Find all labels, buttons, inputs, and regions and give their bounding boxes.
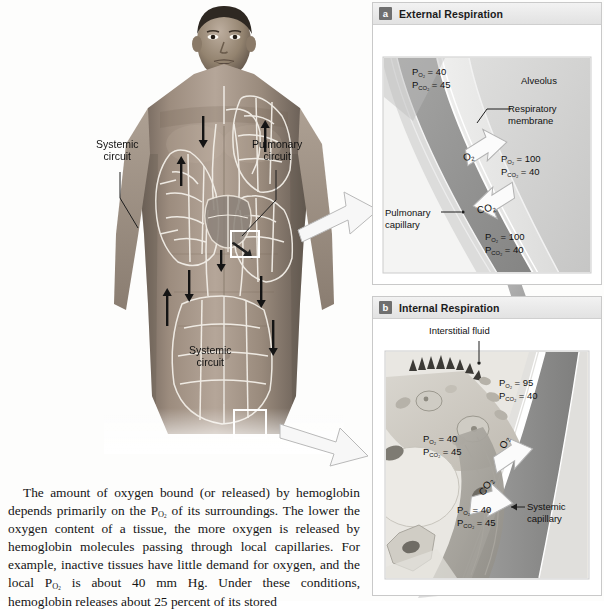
- resp-membrane-line-1: Respiratory: [508, 103, 557, 114]
- label-interstitial-fluid: Interstitial fluid: [429, 325, 490, 336]
- po2-value: 40: [481, 504, 492, 515]
- pressure-capillary-inflow-b: PO2 = 95 PCO2 = 40: [499, 377, 538, 404]
- panel-b-title: Internal Respiration: [399, 302, 500, 314]
- panel-a-badge: a: [379, 7, 392, 20]
- po2-line: PO2 = 100: [501, 153, 541, 166]
- pco2-line: PCO2 = 45: [457, 517, 496, 530]
- po2-value: 100: [525, 153, 541, 164]
- po2-line: PO2 = 95: [499, 377, 538, 390]
- label-pulmonary-circuit: Pulmonary circuit: [252, 138, 302, 163]
- pressure-capillary-outflow-a: PO2 = 100 PCO2 = 40: [485, 231, 525, 258]
- pressure-capillary-inflow-a: PO2 = 40 PCO2 = 45: [412, 66, 451, 93]
- o2-arrow-label-a: O2O2: [462, 150, 475, 164]
- alveolus-text: Alveolus: [521, 75, 557, 86]
- pco2-line: PCO2 = 40: [485, 244, 525, 257]
- label-pulmonary-capillary: Pulmonary capillary: [385, 207, 430, 231]
- pressure-alveolus-a: PO2 = 100 PCO2 = 40: [501, 153, 541, 180]
- label-systemic-capillary: Systemic capillary: [527, 501, 566, 525]
- label-line-1: Systemic: [96, 138, 139, 150]
- pco2-value: 40: [527, 390, 538, 401]
- pco2-line: PCO2 = 45: [423, 446, 462, 459]
- pco2-line: PCO2 = 40: [501, 166, 541, 179]
- panel-b-header: b Internal Respiration: [373, 297, 601, 319]
- label-line-1: Pulmonary: [252, 138, 302, 150]
- pulm-cap-line-1: Pulmonary: [385, 207, 430, 218]
- panel-a-header: a External Respiration: [373, 3, 601, 25]
- resp-membrane-line-2: membrane: [508, 115, 553, 126]
- body-paragraph: The amount of oxygen bound (or released)…: [8, 484, 360, 610]
- panel-external-respiration: a External Respiration: [372, 2, 602, 285]
- pco2-value: 45: [451, 446, 462, 457]
- label-line-2: circuit: [263, 150, 290, 162]
- callout-box-a: [230, 230, 260, 258]
- label-respiratory-membrane: Respiratory membrane: [508, 103, 557, 127]
- sys-cap-line-1: Systemic: [527, 501, 566, 512]
- panel-internal-respiration: b Internal Respiration: [372, 296, 602, 596]
- po2-value: 40: [447, 433, 458, 444]
- pco2-line: PCO2 = 40: [499, 390, 538, 403]
- panel-b-badge: b: [379, 301, 392, 314]
- label-systemic-circuit-upper: Systemic circuit: [96, 138, 139, 163]
- label-alveolus: Alveolus: [521, 75, 557, 86]
- subscript-o2-2: O2: [52, 582, 61, 591]
- po2-line: PO2 = 40: [423, 433, 462, 446]
- po2-value: 95: [523, 377, 534, 388]
- pressure-tissue-b: PO2 = 40 PCO2 = 45: [423, 433, 462, 460]
- pco2-line: PCO2 = 45: [412, 79, 451, 92]
- label-line-2: circuit: [104, 150, 131, 162]
- po2-line: PO2 = 40: [457, 504, 496, 517]
- pressure-capillary-outflow-b: PO2 = 40 PCO2 = 45: [457, 504, 496, 531]
- pco2-value: 45: [485, 517, 496, 528]
- sys-cap-line-2: capillary: [527, 513, 562, 524]
- interstitial-fluid-text: Interstitial fluid: [429, 325, 490, 336]
- callout-box-b: [233, 409, 267, 439]
- panel-a-title: External Respiration: [399, 8, 503, 20]
- po2-line: PO2 = 100: [485, 231, 525, 244]
- pco2-value: 40: [529, 166, 540, 177]
- pulm-cap-line-2: capillary: [385, 219, 420, 230]
- po2-value: 100: [509, 231, 525, 242]
- pco2-value: 45: [440, 79, 451, 90]
- label-line-2: circuit: [197, 356, 224, 368]
- label-systemic-circuit-lower: Systemic circuit: [189, 344, 232, 369]
- pco2-value: 40: [513, 244, 524, 255]
- panel-b-artwork: [373, 319, 601, 595]
- po2-value: 40: [436, 66, 447, 77]
- human-body-circulation-diagram: [104, 4, 344, 454]
- label-line-1: Systemic: [189, 344, 232, 356]
- subscript-o2-1: O2: [158, 510, 167, 519]
- po2-line: PO2 = 40: [412, 66, 451, 79]
